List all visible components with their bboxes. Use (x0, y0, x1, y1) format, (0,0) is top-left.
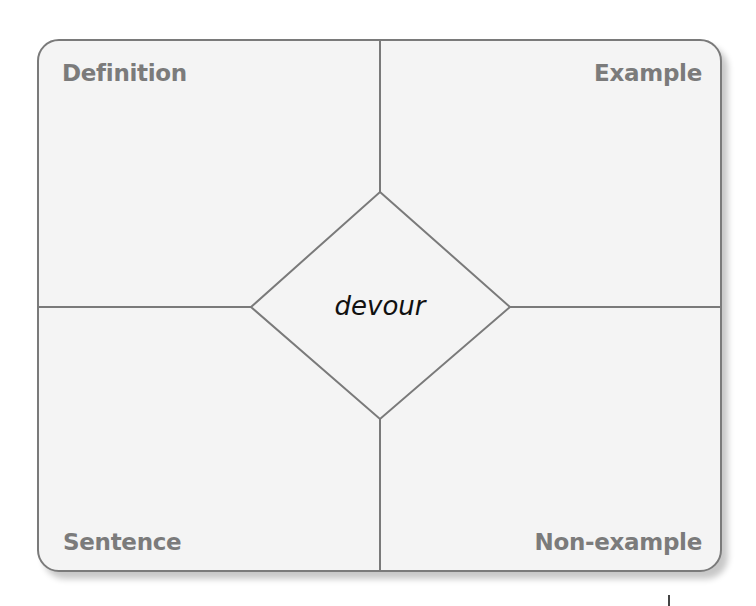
center-word: devour (280, 291, 480, 321)
quadrant-label-non-example: Non-example (534, 529, 702, 555)
quadrant-label-definition: Definition (62, 60, 187, 86)
quadrant-label-sentence: Sentence (63, 529, 181, 555)
quadrant-label-example: Example (594, 60, 702, 86)
page-edge-mark (668, 595, 670, 606)
